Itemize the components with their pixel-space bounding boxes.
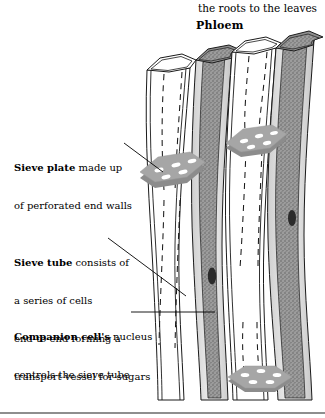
nucleus-icon [208,268,216,285]
callout-companion-lead: Companion cell's [14,331,110,342]
callout-sieve-plate-line2: of perforated end walls [14,200,132,213]
page-bottom-rule [0,412,325,414]
callout-sieve-plate: Sieve plate made up of perforated end wa… [14,137,132,238]
callout-sieve-plate-lead: Sieve plate [14,162,75,173]
figure-page: the roots to the leaves Phloem [0,0,325,418]
callout-companion-rest: nucleus [110,331,152,342]
nucleus-icon [288,210,296,226]
callout-sieve-plate-rest: made up [75,162,122,173]
sieve-tube-left [146,54,196,400]
companion-cell-right [268,31,323,400]
callout-sieve-tube-rest: consists of [72,257,129,268]
callout-sieve-tube-lead: Sieve tube [14,257,72,268]
callout-companion-line2: controls the sieve tube [14,369,152,382]
callout-companion-cell: Companion cell's nucleus controls the si… [14,306,152,407]
